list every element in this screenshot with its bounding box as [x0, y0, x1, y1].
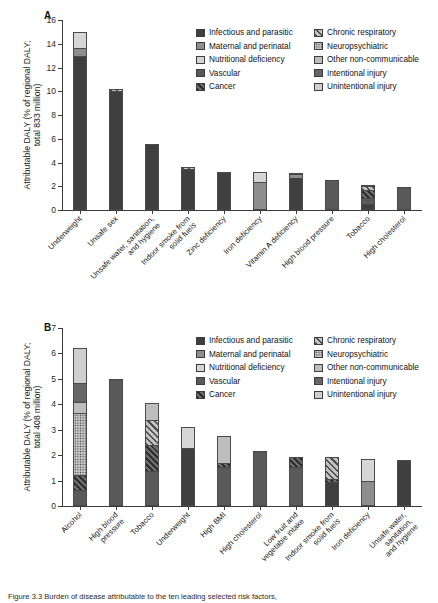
bar-segment-infectious [290, 179, 302, 209]
y-tick-b-5 [58, 379, 62, 380]
legend-label-neuropsychiatric: Neuropsychiatric [327, 42, 388, 51]
bar-segment-maternal [74, 49, 86, 57]
legend-item-other_noncomm[interactable]: Other non-communicable [314, 363, 419, 372]
legend-item-cancer[interactable]: Cancer [196, 390, 235, 399]
legend-item-vascular[interactable]: Vascular [196, 69, 240, 78]
legend-label-infectious: Infectious and parasitic [209, 336, 293, 345]
x-tick-b-0 [80, 506, 81, 510]
legend-swatch-vascular [196, 69, 205, 77]
legend-item-maternal[interactable]: Maternal and perinatal [196, 350, 290, 359]
x-tick-label-a-0: Underweight [47, 215, 84, 252]
x-tick-label-line: Tobacco [345, 214, 372, 241]
x-tick-label-b-3: Underweight [155, 511, 192, 548]
bar-segment-cancer [146, 446, 158, 472]
legend-item-vascular[interactable]: Vascular [196, 377, 240, 386]
legend-swatch-intentional_injury [314, 377, 323, 385]
x-tick-b-1 [116, 506, 117, 510]
y-tick-a-4 [58, 115, 62, 116]
legend-item-chronic_respiratory[interactable]: Chronic respiratory [314, 336, 396, 345]
bar-b-1[interactable] [109, 379, 123, 506]
bar-segment-cancer [290, 458, 302, 468]
y-axis-label-a-line1: Attributable DALY (% of regional DALY; [22, 41, 32, 190]
bar-segment-cancer [362, 191, 374, 199]
x-tick-a-4 [224, 210, 225, 214]
bar-segment-neuropsychiatric [74, 414, 86, 476]
bar-b-5[interactable] [253, 451, 267, 506]
legend-swatch-other_noncomm [314, 56, 323, 64]
legend-item-neuropsychiatric[interactable]: Neuropsychiatric [314, 350, 388, 359]
bar-a-4[interactable] [217, 172, 231, 210]
bar-a-3[interactable] [181, 167, 195, 210]
legend-swatch-other_noncomm [314, 364, 323, 372]
legend-label-other_noncomm: Other non-communicable [327, 363, 419, 372]
y-axis-label-b-line2: total 408 million) [32, 386, 42, 449]
legend-label-unintentional_injury: Unintentional injury [327, 82, 397, 91]
legend-swatch-infectious [196, 337, 205, 345]
legend-swatch-neuropsychiatric [314, 42, 323, 50]
bar-a-8[interactable] [361, 185, 375, 210]
legend-item-other_noncomm[interactable]: Other non-communicable [314, 55, 419, 64]
legend-item-infectious[interactable]: Infectious and parasitic [196, 336, 293, 345]
bar-b-9[interactable] [397, 460, 411, 506]
bar-a-0[interactable] [73, 32, 87, 210]
y-tick-label-a-4: 8 [34, 110, 56, 120]
bar-b-6[interactable] [289, 457, 303, 506]
y-tick-label-a-3: 6 [34, 134, 56, 144]
bar-a-5[interactable] [253, 172, 267, 210]
bar-a-6[interactable] [289, 173, 303, 210]
legend-item-cancer[interactable]: Cancer [196, 82, 235, 91]
y-axis-label-b-line1: Attributable DALY (% of regional DALY; [22, 343, 32, 492]
x-tick-label-line: Underweight [46, 214, 83, 251]
bar-b-4[interactable] [217, 436, 231, 506]
bar-segment-infectious [326, 483, 338, 505]
legend-item-neuropsychiatric[interactable]: Neuropsychiatric [314, 42, 388, 51]
x-tick-a-7 [332, 210, 333, 214]
bar-a-7[interactable] [325, 180, 339, 210]
x-tick-label-line: Unsafe water, sanitation, [89, 214, 156, 281]
bar-segment-infectious [110, 92, 122, 209]
bar-a-2[interactable] [145, 144, 159, 210]
bar-b-7[interactable] [325, 457, 339, 506]
bar-a-9[interactable] [397, 187, 411, 210]
legend-label-maternal: Maternal and perinatal [209, 350, 290, 359]
legend-label-intentional_injury: Intentional injury [327, 377, 387, 386]
x-tick-a-8 [368, 210, 369, 214]
legend-item-nutritional[interactable]: Nutritional deficiency [196, 363, 285, 372]
bar-segment-maternal [254, 183, 266, 209]
legend-swatch-cancer [196, 83, 205, 91]
bar-segment-infectious [218, 173, 230, 209]
legend-swatch-infectious [196, 29, 205, 37]
x-tick-label-b-9: Unsafe water,sanitation,and hygiene [368, 511, 420, 563]
legend-item-maternal[interactable]: Maternal and perinatal [196, 42, 290, 51]
y-tick-a-7 [58, 44, 62, 45]
x-tick-a-5 [260, 210, 261, 214]
legend-item-unintentional_injury[interactable]: Unintentional injury [314, 390, 397, 399]
legend-label-cancer: Cancer [209, 82, 235, 91]
y-tick-label-a-0: 0 [34, 205, 56, 215]
bar-a-1[interactable] [109, 89, 123, 210]
x-tick-a-2 [152, 210, 153, 214]
bar-b-0[interactable] [73, 348, 87, 506]
legend-label-vascular: Vascular [209, 69, 240, 78]
legend-item-unintentional_injury[interactable]: Unintentional injury [314, 82, 397, 91]
y-tick-label-b-3: 3 [34, 425, 56, 435]
legend-item-nutritional[interactable]: Nutritional deficiency [196, 55, 285, 64]
legend-swatch-nutritional [196, 364, 205, 372]
legend-swatch-chronic_respiratory [314, 29, 323, 37]
bar-segment-vascular [74, 491, 86, 505]
bar-segment-other_noncomm [218, 437, 230, 463]
legend-item-chronic_respiratory[interactable]: Chronic respiratory [314, 28, 396, 37]
x-tick-a-3 [188, 210, 189, 214]
x-tick-b-8 [368, 506, 369, 510]
legend-item-intentional_injury[interactable]: Intentional injury [314, 377, 387, 386]
bar-segment-other_noncomm [146, 404, 158, 421]
y-tick-label-b-7: 7 [34, 323, 56, 333]
bar-b-3[interactable] [181, 427, 195, 506]
legend-label-neuropsychiatric: Neuropsychiatric [327, 350, 388, 359]
bar-b-2[interactable] [145, 403, 159, 506]
bar-segment-infectious [74, 57, 86, 209]
legend-item-infectious[interactable]: Infectious and parasitic [196, 28, 293, 37]
legend-item-intentional_injury[interactable]: Intentional injury [314, 69, 387, 78]
y-tick-a-6 [58, 68, 62, 69]
bar-b-8[interactable] [361, 459, 375, 506]
